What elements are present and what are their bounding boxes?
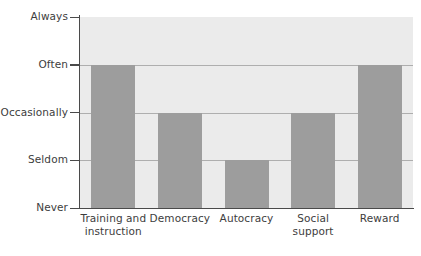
bar-training-and-instruction[interactable] — [91, 65, 135, 208]
y-axis-label-always: Always — [0, 11, 68, 22]
y-tick-mark-never — [70, 208, 79, 209]
y-tick-mark-occasionally — [70, 112, 79, 113]
bar-reward[interactable] — [358, 65, 402, 208]
x-axis-line — [79, 208, 414, 210]
bar-social-support[interactable] — [291, 113, 335, 209]
y-axis-label-seldom: Seldom — [0, 154, 68, 165]
x-axis-label-line: instruction — [68, 225, 158, 238]
y-axis-label-often: Often — [0, 59, 68, 70]
y-tick-mark-often — [70, 64, 79, 65]
x-axis-label-line: Reward — [335, 212, 421, 225]
x-axis-label-reward: Reward — [335, 212, 421, 225]
y-axis-label-occasionally: Occasionally — [0, 107, 68, 118]
y-axis-label-never: Never — [0, 202, 68, 213]
y-tick-mark-seldom — [70, 160, 79, 161]
plot-area — [80, 17, 413, 208]
y-tick-mark-always — [70, 17, 79, 18]
y-axis-line — [79, 15, 80, 209]
x-axis-label-line: support — [268, 225, 358, 238]
bar-autocracy[interactable] — [225, 160, 269, 208]
bar-chart: NeverSeldomOccasionallyOftenAlways Train… — [0, 0, 421, 256]
bar-democracy[interactable] — [158, 113, 202, 209]
